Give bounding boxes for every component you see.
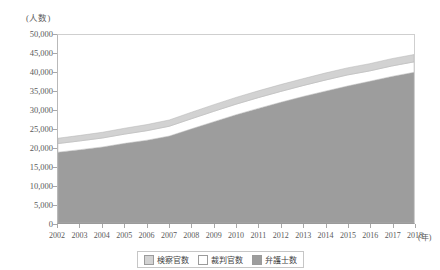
x-axis-tick-label: 2003: [71, 231, 87, 240]
x-axis-tick-label: 2014: [318, 231, 334, 240]
y-axis-tick-label: 15,000: [30, 162, 53, 172]
x-axis-tickmark: [169, 224, 170, 228]
x-axis-tickmark: [281, 224, 282, 228]
legend-swatch-judges: [198, 255, 208, 265]
x-axis-tickmark: [393, 224, 394, 228]
legend-item-judges: 裁判官数: [198, 254, 243, 265]
y-axis-tick-label: 5,000: [34, 200, 53, 210]
legend-item-attorneys: 弁護士数: [252, 254, 297, 265]
x-axis-tickmark: [102, 224, 103, 228]
legend-swatch-attorneys: [252, 255, 262, 265]
legend-swatch-prosecutors: [144, 255, 154, 265]
x-axis-tick-label: 2005: [116, 231, 132, 240]
x-axis-tickmark: [370, 224, 371, 228]
x-axis-tick-label: 2008: [183, 231, 199, 240]
x-axis-tickmark: [147, 224, 148, 228]
plot-area: [57, 34, 415, 224]
legend-label-judges: 裁判官数: [211, 254, 243, 265]
x-axis-tickmark: [415, 224, 416, 228]
x-axis-unit-label: (年): [418, 231, 431, 242]
x-axis-tickmark: [124, 224, 125, 228]
x-axis-tick-label: 2009: [206, 231, 222, 240]
legend-label-attorneys: 弁護士数: [265, 254, 297, 265]
x-axis-tickmark: [79, 224, 80, 228]
y-axis-tick-label: 25,000: [30, 124, 53, 134]
legend-label-prosecutors: 検察官数: [157, 254, 189, 265]
x-axis-tick-label: 2007: [161, 231, 177, 240]
x-axis-tick-label: 2006: [139, 231, 155, 240]
x-axis-tick-label: 2010: [228, 231, 244, 240]
x-axis-tick-label: 2017: [385, 231, 401, 240]
y-axis-tick-label: 35,000: [30, 86, 53, 96]
legend-item-prosecutors: 検察官数: [144, 254, 189, 265]
stacked-area-chart: (人数) 05,00010,00015,00020,00025,00030,00…: [0, 0, 440, 270]
x-axis-tickmark: [236, 224, 237, 228]
x-axis-tickmark: [326, 224, 327, 228]
x-axis-tick-label: 2012: [273, 231, 289, 240]
area-series-1: [58, 72, 414, 223]
area-series-canvas: [58, 35, 414, 223]
x-axis-tickmark: [57, 224, 58, 228]
x-axis-tickmark: [258, 224, 259, 228]
y-axis-tick-label: 50,000: [30, 29, 53, 39]
y-axis-labels: 05,00010,00015,00020,00025,00030,00035,0…: [0, 0, 53, 270]
x-axis-tick-label: 2016: [362, 231, 378, 240]
x-axis-tick-label: 2004: [94, 231, 110, 240]
x-axis-tickmark: [191, 224, 192, 228]
x-axis-tickmark: [214, 224, 215, 228]
x-axis-tick-label: 2015: [340, 231, 356, 240]
y-axis-tick-label: 45,000: [30, 48, 53, 58]
x-axis-tick-label: 2011: [251, 231, 267, 240]
y-axis-tick-label: 40,000: [30, 67, 53, 77]
chart-legend: 検察官数 裁判官数 弁護士数: [137, 251, 304, 268]
x-axis-tickmark: [303, 224, 304, 228]
y-axis-tick-label: 20,000: [30, 143, 53, 153]
y-axis-tick-label: 30,000: [30, 105, 53, 115]
y-axis-tick-label: 10,000: [30, 181, 53, 191]
x-axis-tickmark: [348, 224, 349, 228]
x-axis-tick-label: 2013: [295, 231, 311, 240]
x-axis-tick-label: 2002: [49, 231, 65, 240]
